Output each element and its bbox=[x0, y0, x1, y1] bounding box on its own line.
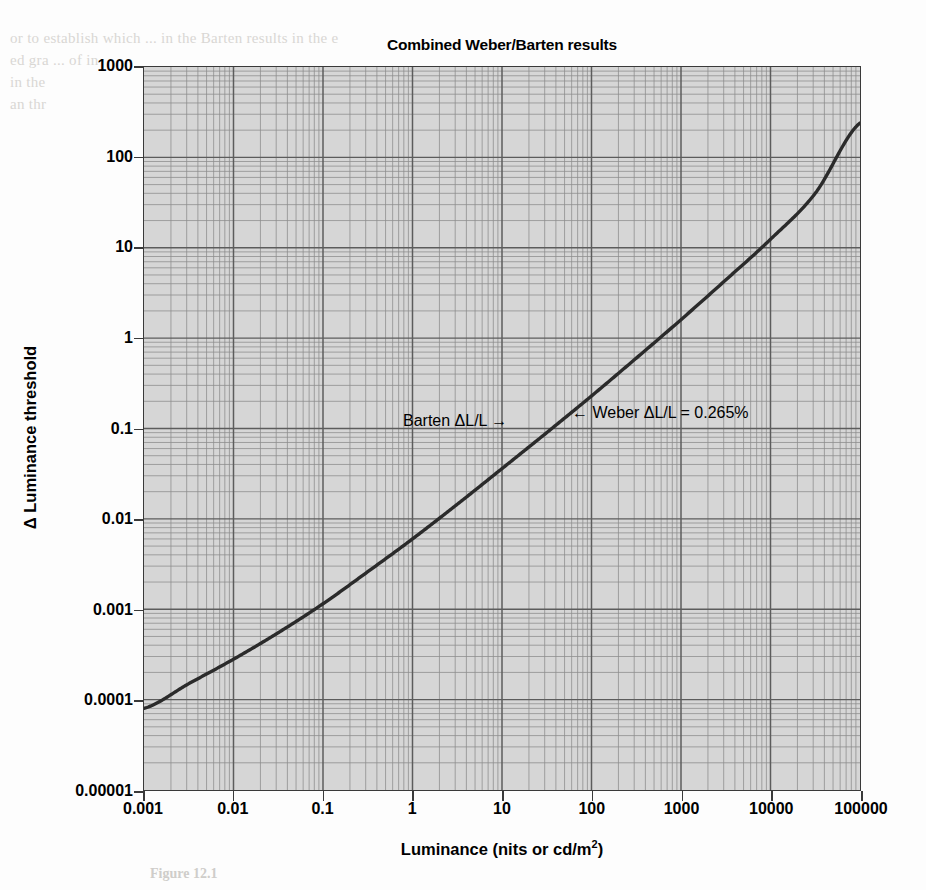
x-axis-tick-labels: 0.0010.010.1110100100010000100000 bbox=[0, 800, 926, 824]
x-tick-100: 100 bbox=[578, 800, 605, 818]
y-tick-1000: 1000 bbox=[97, 57, 133, 75]
y-tick-0.1: 0.1 bbox=[111, 420, 133, 438]
y-tick-0.00001: 0.00001 bbox=[75, 782, 133, 800]
x-tick-1000: 1000 bbox=[664, 800, 700, 818]
x-tick-mark bbox=[861, 791, 863, 801]
x-tick-0.1: 0.1 bbox=[311, 800, 333, 818]
weber-annotation: ← Weber ΔL/L = 0.265% bbox=[572, 404, 749, 422]
x-tick-mark bbox=[233, 791, 235, 801]
y-axis-title: Δ Luminance threshold bbox=[21, 178, 40, 698]
barten-annotation: Barten ΔL/L → bbox=[403, 412, 507, 430]
x-tick-0.01: 0.01 bbox=[217, 800, 248, 818]
y-tick-mark bbox=[134, 519, 144, 521]
caption-label: Figure 12.1 bbox=[150, 866, 217, 881]
y-tick-mark bbox=[134, 157, 144, 159]
x-tick-10000: 10000 bbox=[749, 800, 794, 818]
y-tick-10: 10 bbox=[115, 238, 133, 256]
figure-container: Combined Weber/Barten results 1000100101… bbox=[0, 0, 926, 890]
y-tick-mark bbox=[134, 610, 144, 612]
x-tick-mark bbox=[323, 791, 325, 801]
y-tick-mark bbox=[134, 700, 144, 702]
y-tick-0.01: 0.01 bbox=[102, 510, 133, 528]
y-tick-0.001: 0.001 bbox=[93, 601, 133, 619]
y-tick-mark bbox=[134, 247, 144, 249]
x-tick-100000: 100000 bbox=[834, 800, 887, 818]
y-tick-100: 100 bbox=[106, 148, 133, 166]
x-tick-10: 10 bbox=[493, 800, 511, 818]
x-axis-title: Luminance (nits or cd/m2) bbox=[143, 838, 861, 859]
x-tick-mark bbox=[682, 791, 684, 801]
y-tick-0.0001: 0.0001 bbox=[84, 691, 133, 709]
x-tick-0.001: 0.001 bbox=[123, 800, 163, 818]
y-tick-mark bbox=[134, 429, 144, 431]
chart-title: Combined Weber/Barten results bbox=[143, 36, 861, 54]
y-tick-mark bbox=[134, 66, 144, 68]
y-tick-1: 1 bbox=[124, 329, 133, 347]
x-tick-mark bbox=[412, 791, 414, 801]
y-tick-mark bbox=[134, 338, 144, 340]
x-tick-1: 1 bbox=[408, 800, 417, 818]
x-tick-mark bbox=[771, 791, 773, 801]
superscript-two: 2 bbox=[592, 838, 598, 850]
figure-caption: Figure 12.1 bbox=[150, 866, 810, 882]
x-tick-mark bbox=[592, 791, 594, 801]
x-tick-mark bbox=[143, 791, 145, 801]
x-tick-mark bbox=[502, 791, 504, 801]
